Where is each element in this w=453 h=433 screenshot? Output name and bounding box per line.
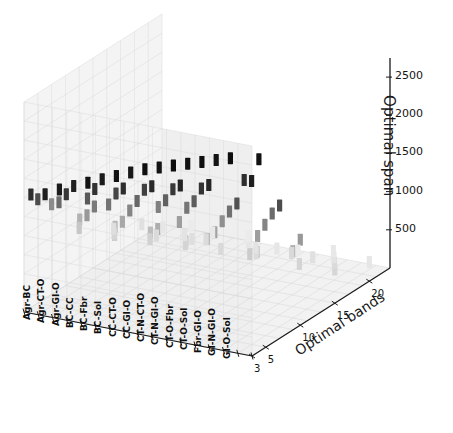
z-axis-tick-label: 2500 <box>395 69 423 82</box>
z-axis-tick-label: 2000 <box>395 107 423 120</box>
y-axis-tick-label: 20 <box>371 288 384 299</box>
x-axis-tick-label: Agr-GI-O <box>51 282 61 326</box>
x-axis-tick-label: BC-CC <box>65 298 75 329</box>
x-axis-tick-label: CT-N-CT-O <box>136 293 146 342</box>
figure-canvas: Optimal span Optimal bands 5001000150020… <box>0 0 453 433</box>
x-axis-tick-label: CT-O-Sol <box>179 308 189 350</box>
y-axis-tick-label: 10 <box>302 332 315 343</box>
x-axis-tick-label: CT-N-GI-O <box>150 296 160 345</box>
z-axis-tick-label: 500 <box>395 222 416 235</box>
x-axis-tick-label: Agr-CT-O <box>36 278 46 322</box>
y-axis-tick-label: 3 <box>254 363 260 374</box>
y-axis-tick-label: 5 <box>268 354 274 365</box>
z-axis-tick-label: 1000 <box>395 184 423 197</box>
y-axis-tick-label: 15 <box>337 310 350 321</box>
x-axis-tick-label: GI-O-Sol <box>222 317 232 359</box>
scatter-3d-plot <box>0 0 453 433</box>
x-axis-tick-label: BC-Sol <box>93 301 103 334</box>
x-axis-tick-label: BC-Fbr <box>79 297 89 331</box>
x-axis-tick-label: CC-GI-O <box>122 300 132 339</box>
x-axis-tick-label: Agr-BC <box>22 285 32 320</box>
z-axis-tick-label: 1500 <box>395 145 423 158</box>
x-axis-tick-label: CT-O-Fbr <box>165 304 175 348</box>
x-axis-tick-label: GI-N-GI-O <box>207 308 217 356</box>
x-axis-tick-label: Fbr-GI-O <box>193 310 203 353</box>
x-axis-tick-label: CC-CT-O <box>108 297 118 337</box>
